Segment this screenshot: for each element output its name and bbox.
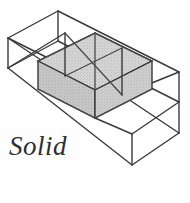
figure-caption: Solid	[9, 131, 67, 161]
figure-container: Solid	[0, 0, 190, 203]
isometric-box-diagram	[0, 0, 190, 203]
